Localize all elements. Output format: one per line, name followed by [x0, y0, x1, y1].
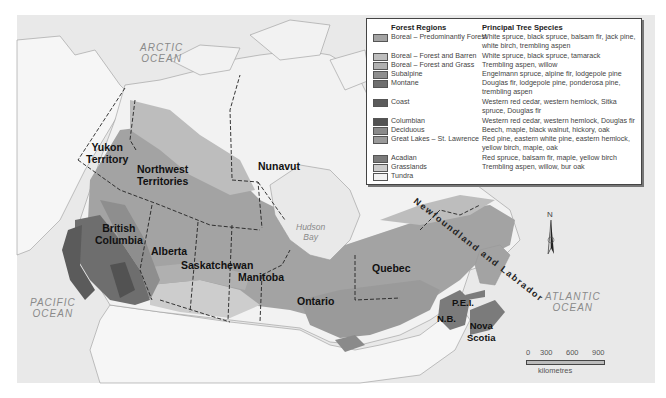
north-arrow-icon	[544, 220, 558, 256]
label-nwt: NorthwestTerritories	[137, 163, 188, 187]
scale-unit: kilometres	[538, 366, 572, 375]
legend-swatch	[373, 164, 388, 172]
legend-swatch	[373, 127, 388, 135]
label-quebec: Quebec	[372, 262, 411, 274]
label-nb: N.B.	[437, 313, 456, 325]
pacific-ocean-label: PACIFICOCEAN	[30, 297, 76, 319]
atlantic-ocean-label: ATLANTICOCEAN	[545, 291, 601, 313]
legend-header-species: Principal Tree Species	[482, 23, 563, 32]
label-ns: NovaScotia	[467, 320, 496, 344]
label-ontario: Ontario	[297, 295, 334, 307]
label-yukon: YukonTerritory	[86, 141, 128, 165]
legend: Forest Regions Principal Tree Species Bo…	[366, 18, 642, 185]
legend-swatch	[373, 173, 388, 181]
arctic-ocean-label: ARCTICOCEAN	[140, 42, 183, 64]
scale-bar-graphic	[526, 360, 605, 365]
legend-swatch	[373, 99, 388, 107]
legend-swatch	[373, 80, 388, 88]
label-nunavut: Nunavut	[258, 160, 300, 172]
legend-swatch	[373, 34, 388, 42]
label-manitoba: Manitoba	[238, 271, 284, 283]
legend-swatch	[373, 62, 388, 70]
legend-swatch	[373, 71, 388, 79]
label-alberta: Alberta	[151, 245, 187, 257]
north-arrow: N	[544, 210, 558, 256]
label-bc: BritishColumbia	[95, 222, 143, 246]
hudson-bay-label: HudsonBay	[296, 222, 325, 242]
legend-swatch	[373, 53, 388, 61]
legend-header-regions: Forest Regions	[391, 23, 446, 32]
legend-swatch	[373, 118, 388, 126]
legend-swatch	[373, 155, 388, 163]
legend-swatch	[373, 136, 388, 144]
north-arrow-letter: N	[547, 210, 553, 219]
label-saskatchewan: Saskatchewan	[181, 259, 253, 271]
label-pei: P.E.I.	[452, 297, 474, 309]
